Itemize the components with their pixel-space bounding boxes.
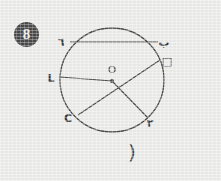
radius-o-w <box>60 77 112 81</box>
point-label-h: C <box>64 112 72 125</box>
question-number-badge: 8 <box>14 22 39 47</box>
point-label-b: ب <box>158 36 169 49</box>
point-label-a: ٦ <box>58 36 65 49</box>
radius-o-e <box>112 81 148 118</box>
point-label-d: □ <box>162 55 172 68</box>
diagram-page: 8 O ٦ ب □ L C ٢ ( <box>0 0 221 181</box>
center-label-o: O <box>108 63 116 75</box>
point-label-e: ٢ <box>147 117 154 130</box>
center-point-marker <box>110 79 114 83</box>
caption-text: ( <box>128 142 136 162</box>
point-label-w: L <box>47 72 54 85</box>
